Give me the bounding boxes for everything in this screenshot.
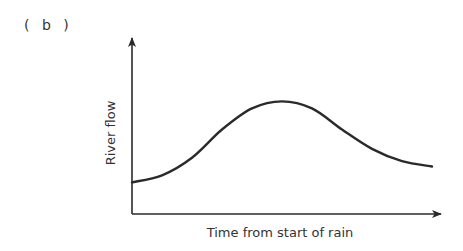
y-axis-label: River flow bbox=[103, 101, 118, 166]
hydrograph-plot bbox=[0, 0, 463, 251]
x-axis-label: Time from start of rain bbox=[207, 225, 354, 240]
river-flow-curve bbox=[132, 101, 432, 182]
